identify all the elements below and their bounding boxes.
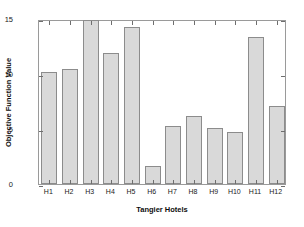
x-tick-top — [173, 21, 174, 25]
bar-h9 — [207, 128, 223, 184]
bar-h10 — [227, 132, 243, 184]
x-tick-top — [153, 21, 154, 25]
y-tick-label-0: 0 — [0, 181, 13, 189]
x-tick — [173, 180, 174, 184]
y-tick-right — [281, 186, 285, 187]
y-tick-label-15: 15 — [0, 16, 13, 24]
x-tick — [91, 180, 92, 184]
bar-h3 — [83, 20, 99, 184]
bar-h4 — [103, 53, 119, 184]
x-tick-label-h12: H12 — [262, 188, 290, 196]
bar-series — [39, 21, 285, 184]
bar-h12 — [269, 106, 285, 184]
bar-h1 — [41, 72, 57, 184]
x-tick-top — [215, 21, 216, 25]
y-tick — [39, 76, 43, 77]
x-axis-title: Tangier Hotels — [38, 205, 286, 214]
x-tick — [194, 180, 195, 184]
x-tick-top — [91, 21, 92, 25]
x-tick — [132, 180, 133, 184]
y-tick-label-5: 5 — [0, 126, 13, 134]
x-tick — [215, 180, 216, 184]
bar-h2 — [62, 69, 78, 185]
x-tick — [256, 180, 257, 184]
x-tick-top — [49, 21, 50, 25]
bar-h8 — [186, 116, 202, 184]
x-tick-top — [277, 21, 278, 25]
x-tick — [49, 180, 50, 184]
x-tick — [153, 180, 154, 184]
x-tick-top — [70, 21, 71, 25]
plot-area — [38, 20, 286, 185]
x-tick-top — [194, 21, 195, 25]
y-tick-right — [281, 131, 285, 132]
x-tick-top — [256, 21, 257, 25]
bar-h7 — [165, 126, 181, 184]
y-tick — [39, 21, 43, 22]
y-tick-label-10: 10 — [0, 71, 13, 79]
bar-h5 — [124, 27, 140, 184]
x-tick — [111, 180, 112, 184]
bar-h11 — [248, 37, 264, 184]
y-tick-right — [281, 76, 285, 77]
y-tick — [39, 131, 43, 132]
x-tick — [70, 180, 71, 184]
x-tick — [235, 180, 236, 184]
y-axis-title: Objective Function Value — [2, 20, 16, 185]
x-tick-top — [235, 21, 236, 25]
x-tick-top — [111, 21, 112, 25]
x-tick — [277, 180, 278, 184]
y-tick-right — [281, 21, 285, 22]
x-tick-top — [132, 21, 133, 25]
y-tick — [39, 186, 43, 187]
bar-chart-figure: Objective Function Value 051015 H1H2H3H4… — [0, 0, 304, 227]
